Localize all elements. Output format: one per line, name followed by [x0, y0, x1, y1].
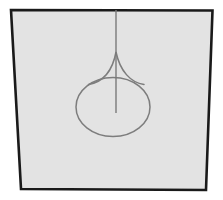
- figure-container: [0, 0, 223, 200]
- figure-canvas: [0, 0, 223, 200]
- quadrilateral-frame: [11, 10, 213, 190]
